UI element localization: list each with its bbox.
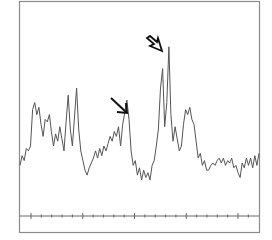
spectrum-chart <box>0 0 272 240</box>
plot-frame <box>20 2 260 233</box>
